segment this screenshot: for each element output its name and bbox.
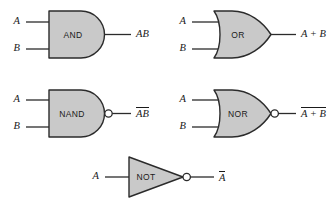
nand-input-b-label: B xyxy=(6,121,20,132)
not-inversion-bubble xyxy=(183,173,190,180)
and-output-label: AB xyxy=(136,29,149,40)
nor-input-b-label: B xyxy=(172,121,186,132)
nand-input-a-text: A xyxy=(14,93,20,104)
not-output-label: A xyxy=(219,171,225,183)
gate-nor: NOR xyxy=(192,90,296,137)
gate-symbols-canvas: AND OR NAND NOR xyxy=(0,0,333,204)
gate-and: AND xyxy=(26,11,131,58)
nor-output-label: A + B xyxy=(301,107,326,119)
nor-input-a-label: A xyxy=(172,94,186,105)
nor-inversion-bubble xyxy=(271,110,278,117)
nand-output-label: AB xyxy=(136,107,149,119)
and-input-b-text: B xyxy=(14,42,20,53)
or-output-text: A + B xyxy=(301,28,326,39)
nand-gate-label: NAND xyxy=(59,109,84,119)
or-input-a-label: A xyxy=(172,16,186,27)
nand-output-text: AB xyxy=(136,107,149,119)
and-output-text: AB xyxy=(136,28,149,39)
or-gate-label: OR xyxy=(231,30,244,40)
or-input-b-text: B xyxy=(180,42,186,53)
nor-output-text: A + B xyxy=(301,107,326,119)
or-input-a-text: A xyxy=(180,15,186,26)
logic-gate-diagram: AND OR NAND NOR xyxy=(0,0,333,204)
nor-input-a-text: A xyxy=(180,93,186,104)
and-gate-label: AND xyxy=(64,30,83,40)
nor-input-b-text: B xyxy=(180,120,186,131)
gate-not: NOT xyxy=(105,157,214,197)
and-input-b-label: B xyxy=(6,43,20,54)
nand-inversion-bubble xyxy=(105,110,112,117)
not-gate-label: NOT xyxy=(137,172,156,182)
gate-or: OR xyxy=(192,11,296,58)
gate-nand: NAND xyxy=(26,90,131,137)
nand-input-a-label: A xyxy=(6,94,20,105)
or-output-label: A + B xyxy=(301,29,326,40)
not-output-text: A xyxy=(219,171,225,183)
or-input-b-label: B xyxy=(172,43,186,54)
not-input-a-label: A xyxy=(85,171,99,182)
and-input-a-label: A xyxy=(6,16,20,27)
nor-gate-label: NOR xyxy=(228,109,248,119)
nand-input-b-text: B xyxy=(14,120,20,131)
not-input-a-text: A xyxy=(93,170,99,181)
and-input-a-text: A xyxy=(14,15,20,26)
